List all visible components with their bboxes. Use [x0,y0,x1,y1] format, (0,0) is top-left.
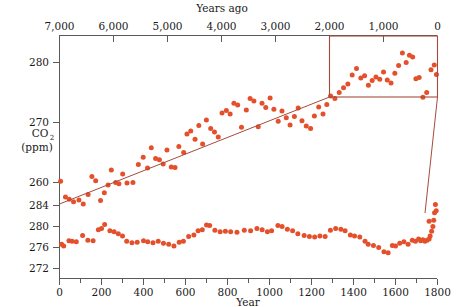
ytick-label-276: 276 [29,241,49,253]
data-point [176,144,181,149]
xtick-label-year-0: 0 [56,286,63,298]
data-point [269,228,274,233]
data-point [299,118,304,123]
data-point [130,180,135,185]
data-point [337,90,342,95]
data-point [234,230,239,235]
xtick-label-year-1400: 1400 [340,286,367,298]
data-point [280,224,285,229]
data-point [302,233,307,238]
data-point [216,134,221,139]
data-point [177,240,182,245]
upper-panel-data-points [58,50,439,206]
data-point [433,202,438,207]
lower-panel-yticks: 284 280 276 272 [29,199,60,274]
connector-line-left [60,97,330,204]
data-point [381,70,386,75]
data-point [260,227,265,232]
data-point [196,228,201,233]
data-point [434,72,439,77]
data-point [98,198,103,203]
data-point [120,172,125,177]
data-point [429,229,434,234]
xtick-label-3000: 3,000 [260,20,290,32]
data-point [263,105,268,110]
data-point [200,142,205,147]
data-point [228,229,233,234]
data-point [193,137,198,142]
data-point [120,233,125,238]
data-point [428,233,433,238]
xtick-label-year-1800: 1800 [424,286,451,298]
xtick-label-year-600: 600 [175,286,195,298]
data-point [268,95,273,100]
data-point [348,232,353,237]
upper-panel: 7,000 6,000 5,000 4,000 3,000 2,000 1,00… [29,20,441,207]
data-point [324,102,329,107]
data-point [76,197,81,202]
data-point [406,242,411,247]
data-point [228,112,233,117]
y-axis-title-units: (ppm) [21,141,53,153]
data-point [102,222,107,227]
data-point [74,239,79,244]
data-point [284,115,289,120]
data-point [116,181,121,186]
data-point [295,231,300,236]
data-point [304,124,309,129]
co2-ice-core-figure: Years ago 7,000 6,000 5,000 4,000 3,000 [0,0,457,307]
data-point [430,224,435,229]
xtick-label-year-1600: 1600 [382,286,409,298]
data-point [200,227,205,232]
data-point [208,126,213,131]
xtick-label-6000: 6,000 [98,20,128,32]
xtick-label-0: 0 [434,20,441,32]
data-point [149,145,154,150]
data-point [166,242,171,247]
y-axis-title-co2: CO [32,127,49,139]
data-point [135,240,140,245]
lower-panel-data-points [59,202,439,255]
data-point [392,71,397,76]
data-point [357,235,362,240]
data-point [81,202,86,207]
data-point [141,155,146,160]
chart-svg: Years ago 7,000 6,000 5,000 4,000 3,000 [0,0,457,307]
data-point [204,118,209,123]
data-point [333,226,338,231]
ytick-label-272: 272 [29,262,49,274]
data-point [188,128,193,133]
data-point [161,241,166,246]
data-point [350,73,355,78]
data-point [186,234,191,239]
data-point [323,234,328,239]
data-point [235,103,240,108]
ytick-label-280: 280 [29,56,49,68]
data-point [424,90,429,95]
xtick-label-year-200: 200 [91,286,111,298]
connector-line-right [425,97,438,213]
y-axis-title: CO 2 (ppm) [21,127,54,153]
data-point [244,107,249,112]
data-point [362,73,367,78]
data-point [427,219,432,224]
lower-panel-xticks-minor [81,279,417,284]
data-point [343,228,348,233]
data-point [307,234,312,239]
data-point [239,125,244,130]
data-point [85,238,90,243]
bottom-axis-title: Year [235,296,260,307]
data-point [173,165,178,170]
data-point [224,108,229,113]
data-point [70,239,75,244]
data-point [102,190,107,195]
data-point [386,250,391,255]
data-point [328,228,333,233]
data-point [136,162,141,167]
xtick-label-year-400: 400 [133,286,153,298]
data-point [431,218,436,223]
data-point [354,66,359,71]
data-point [71,199,76,204]
data-point [89,174,94,179]
data-point [345,82,350,87]
